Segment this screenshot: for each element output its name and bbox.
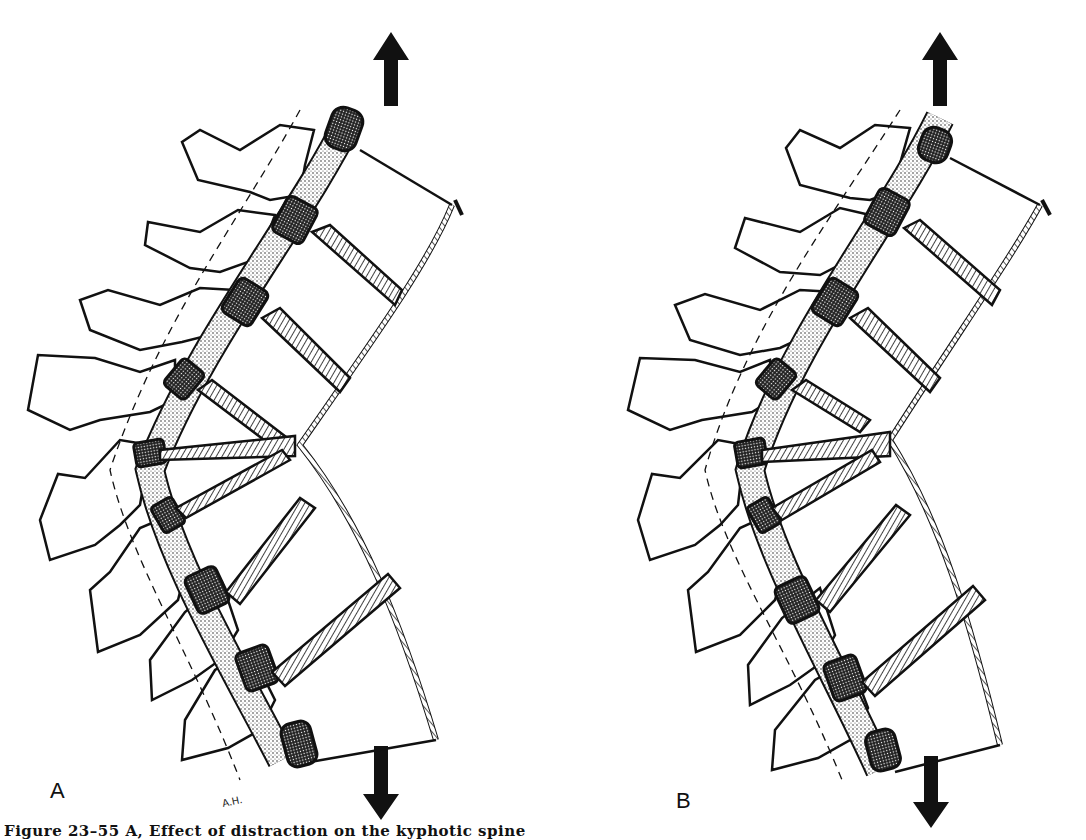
panel-label-a: A	[50, 778, 65, 804]
up-arrow-icon	[373, 32, 409, 106]
down-arrow-icon	[363, 746, 399, 820]
figure-caption: Figure 23–55 A, Effect of distraction on…	[4, 822, 526, 840]
panel-b	[628, 32, 1050, 828]
panel-a	[28, 32, 462, 820]
panel-label-b: B	[676, 788, 691, 814]
up-arrow-icon	[922, 32, 958, 106]
